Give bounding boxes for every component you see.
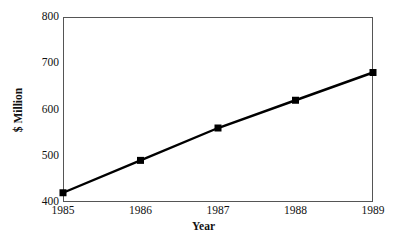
y-axis-title-wrap: $ Million <box>8 0 28 219</box>
line-series-layer <box>63 17 373 202</box>
data-point-marker <box>370 69 377 76</box>
chart-figure: 400500600700800 19851986198719881989 Yea… <box>0 0 407 249</box>
data-point-marker <box>292 97 299 104</box>
x-axis-tick-label: 1986 <box>129 205 152 217</box>
x-axis-tick-label: 1987 <box>207 205 230 217</box>
data-point-marker <box>215 125 222 132</box>
x-axis-tick-label: 1989 <box>362 205 385 217</box>
y-axis-title: $ Million <box>12 87 24 131</box>
y-axis-tick-label: 500 <box>42 150 59 162</box>
x-axis-tick-label: 1985 <box>52 205 75 217</box>
x-axis-tick-label: 1988 <box>284 205 307 217</box>
x-axis-title: Year <box>0 220 407 232</box>
y-axis-tick-label: 700 <box>42 57 59 69</box>
data-point-marker <box>60 189 67 196</box>
series-line <box>63 73 373 193</box>
y-axis-tick-label: 600 <box>42 104 59 116</box>
data-point-marker <box>137 157 144 164</box>
y-axis-tick-label: 800 <box>42 11 59 23</box>
